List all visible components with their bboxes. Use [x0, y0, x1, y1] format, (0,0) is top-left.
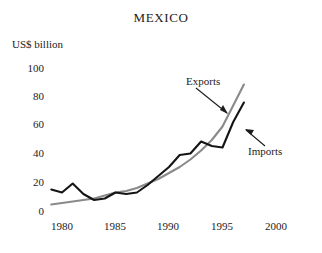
chart-container: MEXICO US$ billion 100 80 60 40 20 0 198…: [0, 0, 322, 253]
series-label-imports: Imports: [248, 145, 282, 157]
plot-area: [0, 0, 322, 253]
series-line-exports: [51, 85, 244, 205]
imports-annotation-arrow: [245, 129, 265, 146]
series-line-imports: [51, 103, 244, 201]
exports-annotation-arrow: [196, 88, 228, 114]
series-label-exports: Exports: [186, 75, 220, 87]
